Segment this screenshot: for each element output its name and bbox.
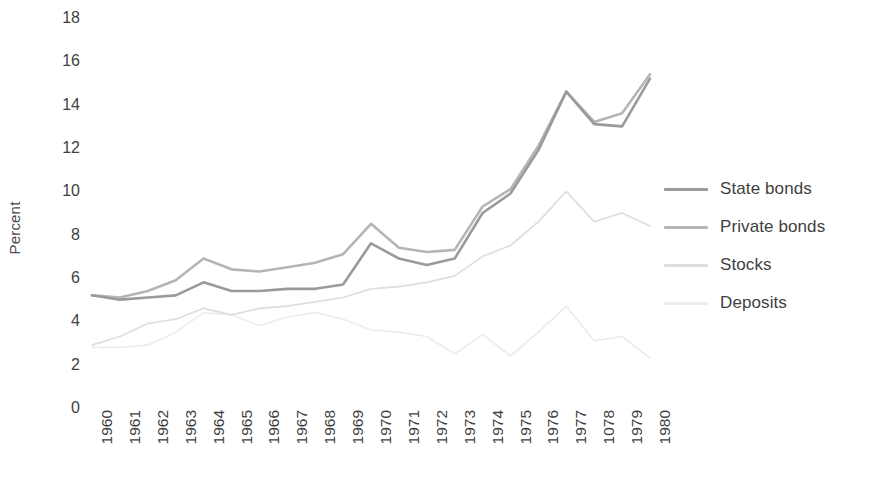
series-line-deposits — [92, 306, 650, 358]
x-axis-tick-1962: 1962 — [155, 410, 171, 484]
y-axis-title: Percent — [6, 168, 23, 288]
x-axis-tick-1974: 1974 — [490, 410, 506, 484]
plot-area — [88, 18, 654, 408]
x-axis-tick-1967: 1967 — [294, 410, 310, 484]
x-axis-tick-1980: 1980 — [657, 410, 673, 484]
series-line-stocks — [92, 191, 650, 345]
y-axis-tick-labels: 181614121086420 — [38, 18, 80, 408]
x-axis-tick-labels: 1960196119621963196419651966196719681969… — [88, 410, 654, 484]
legend-swatch-icon — [664, 188, 708, 191]
x-axis-tick-1969: 1969 — [350, 410, 366, 484]
legend-label: Deposits — [720, 293, 787, 313]
y-axis-tick-14: 14 — [38, 97, 80, 113]
x-axis-tick-1964: 1964 — [211, 410, 227, 484]
legend-item-stocks[interactable]: Stocks — [664, 246, 864, 284]
y-axis-tick-10: 10 — [38, 183, 80, 199]
x-axis-tick-1965: 1965 — [239, 410, 255, 484]
y-axis-tick-2: 2 — [38, 357, 80, 373]
x-axis-tick-1973: 1973 — [462, 410, 478, 484]
legend-item-state-bonds[interactable]: State bonds — [664, 170, 864, 208]
legend-swatch-icon — [664, 226, 708, 229]
y-axis-tick-8: 8 — [38, 227, 80, 243]
legend-label: Stocks — [720, 255, 772, 275]
x-axis-tick-1960: 1960 — [99, 410, 115, 484]
y-axis-tick-18: 18 — [38, 10, 80, 26]
series-line-state-bonds — [92, 79, 650, 300]
x-axis-tick-1966: 1966 — [266, 410, 282, 484]
y-axis-tick-0: 0 — [38, 400, 80, 416]
y-axis-tick-4: 4 — [38, 313, 80, 329]
y-axis-tick-16: 16 — [38, 53, 80, 69]
x-axis-tick-1975: 1975 — [518, 410, 534, 484]
x-axis-tick-1972: 1972 — [434, 410, 450, 484]
chart-legend: State bondsPrivate bondsStocksDeposits — [664, 170, 864, 322]
legend-item-private-bonds[interactable]: Private bonds — [664, 208, 864, 246]
x-axis-tick-1977: 1977 — [573, 410, 589, 484]
x-axis-tick-1961: 1961 — [127, 410, 143, 484]
legend-item-deposits[interactable]: Deposits — [664, 284, 864, 322]
y-axis-tick-12: 12 — [38, 140, 80, 156]
x-axis-tick-1970: 1970 — [378, 410, 394, 484]
legend-swatch-icon — [664, 302, 708, 305]
y-axis-tick-6: 6 — [38, 270, 80, 286]
series-lines — [88, 18, 654, 408]
x-axis-tick-1968: 1968 — [322, 410, 338, 484]
legend-label: Private bonds — [720, 217, 825, 237]
series-line-private-bonds — [92, 74, 650, 297]
legend-label: State bonds — [720, 179, 812, 199]
x-axis-tick-1078: 1078 — [601, 410, 617, 484]
legend-swatch-icon — [664, 264, 708, 267]
x-axis-tick-1963: 1963 — [183, 410, 199, 484]
x-axis-tick-1971: 1971 — [406, 410, 422, 484]
x-axis-tick-1979: 1979 — [629, 410, 645, 484]
x-axis-tick-1976: 1976 — [545, 410, 561, 484]
line-chart: Percent 181614121086420 1960196119621963… — [0, 0, 869, 486]
